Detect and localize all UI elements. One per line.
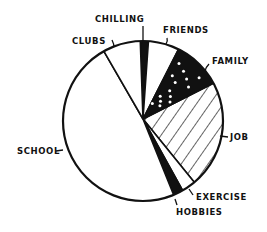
family-dot: [158, 104, 161, 107]
label-friends: FRIENDS: [163, 25, 209, 35]
label-hobbies: HOBBIES: [176, 207, 223, 217]
label-chilling: CHILLING: [95, 14, 144, 24]
family-dot: [169, 95, 172, 98]
label-school: SCHOOL: [17, 146, 60, 156]
family-dot: [168, 89, 171, 92]
family-dot: [187, 85, 190, 88]
family-dot: [185, 78, 188, 81]
family-dot: [174, 81, 177, 84]
family-dot: [198, 76, 201, 79]
label-clubs: CLUBS: [72, 36, 106, 46]
pie-chart: CHILLING FRIENDS CLUBS FAMILY JOB SCHOOL…: [0, 0, 267, 232]
label-job: JOB: [229, 132, 249, 142]
family-dot: [169, 101, 172, 104]
label-family: FAMILY: [212, 56, 249, 66]
family-dot: [159, 100, 162, 103]
label-exercise: EXERCISE: [196, 192, 247, 202]
family-dot: [159, 95, 162, 98]
family-dot: [178, 62, 181, 65]
family-dot: [171, 74, 174, 77]
family-dot: [151, 102, 154, 105]
family-dot: [182, 70, 185, 73]
